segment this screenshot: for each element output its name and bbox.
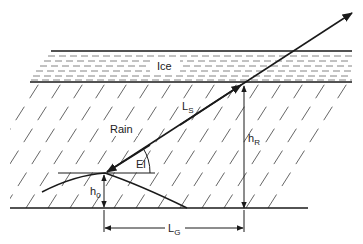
rain-path-diagram: Ice Rain LS El hR h0 LG	[0, 0, 363, 244]
ice-label: Ice	[157, 60, 172, 72]
station-height-label: h0	[90, 185, 101, 200]
slant-path-label: LS	[182, 100, 193, 115]
rain-label: Rain	[110, 123, 133, 135]
elevation-angle-label: El	[136, 158, 146, 170]
ground-distance-label: LG	[168, 222, 180, 237]
rain-layer-hatching	[0, 82, 348, 208]
diagram-canvas: Ice Rain LS El hR h0 LG	[0, 0, 363, 244]
terrain-profile	[42, 173, 187, 208]
rain-height-label: hR	[248, 132, 260, 147]
ice-layer-hatching	[31, 56, 352, 80]
